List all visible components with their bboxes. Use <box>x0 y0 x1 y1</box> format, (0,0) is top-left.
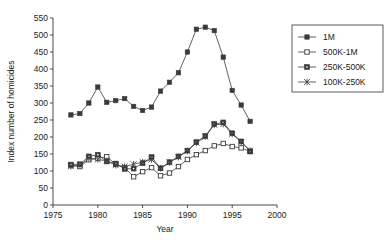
series-500k-1m-marker <box>185 157 189 161</box>
series-500k-1m-marker <box>230 144 234 148</box>
x-axis-tick-label: 1980 <box>88 210 107 220</box>
series-500k-1m-marker <box>176 164 180 168</box>
series-1m-marker <box>248 119 252 123</box>
y-axis-tick-label: 550 <box>34 13 48 23</box>
x-axis-tick-label: 1985 <box>133 210 152 220</box>
series-500k-1m-marker <box>158 174 162 178</box>
y-axis-tick-label: 500 <box>34 30 48 40</box>
y-axis-tick-label: 250 <box>34 115 48 125</box>
series-1m-marker <box>185 50 189 54</box>
series-1m-marker <box>114 98 118 102</box>
series-500k-1m-marker <box>194 152 198 156</box>
y-axis-tick-label: 450 <box>34 47 48 57</box>
legend-item-250k-500k-marker-dot <box>306 66 308 68</box>
y-axis-tick-label: 300 <box>34 98 48 108</box>
series-1m-marker <box>194 27 198 31</box>
legend-item-1m-marker <box>305 35 309 39</box>
series-1m-marker <box>96 85 100 89</box>
legend-item-1m-label: 1M <box>323 32 335 42</box>
series-500k-1m-marker <box>131 175 135 179</box>
legend-item-500k-1m-label: 500K-1M <box>323 47 358 57</box>
series-500k-1m-marker <box>239 146 243 150</box>
series-500k-1m-marker <box>167 171 171 175</box>
y-axis-tick-label: 50 <box>39 183 49 193</box>
y-axis-tick-label: 350 <box>34 81 48 91</box>
series-1m-marker <box>203 25 207 29</box>
series-1m-marker <box>149 105 153 109</box>
chart-figure: 0501001502002503003504004505005501975198… <box>0 0 392 247</box>
series-1m-marker <box>69 113 73 117</box>
series-1m-marker <box>78 111 82 115</box>
series-1m-marker <box>131 104 135 108</box>
y-axis-tick-label: 150 <box>34 149 48 159</box>
x-axis-tick-label: 1990 <box>178 210 197 220</box>
y-axis-tick-label: 0 <box>43 200 48 210</box>
x-axis-tick-label: 2000 <box>268 210 287 220</box>
y-axis-title: Index number of homicides <box>6 60 16 162</box>
y-axis-tick-label: 400 <box>34 64 48 74</box>
series-250k-500k-marker-dot <box>97 154 99 156</box>
legend-item-250k-500k-label: 250K-500K <box>323 62 366 72</box>
series-500k-1m-marker <box>140 169 144 173</box>
series-1m-marker <box>87 101 91 105</box>
legend-item-100k-250k-label: 100K-250K <box>323 77 366 87</box>
y-axis-tick-label: 200 <box>34 132 48 142</box>
series-1m-marker <box>176 71 180 75</box>
series-1m-marker <box>158 89 162 93</box>
y-axis-tick-label: 100 <box>34 166 48 176</box>
legend-item-500k-1m-marker <box>305 50 309 54</box>
series-line-1m <box>71 27 250 121</box>
series-500k-1m-marker <box>221 141 225 145</box>
series-500k-1m-marker <box>212 144 216 148</box>
series-1m-marker <box>239 103 243 107</box>
series-500k-1m-marker <box>203 148 207 152</box>
x-axis-tick-label: 1975 <box>44 210 63 220</box>
x-axis-title: Year <box>156 224 173 234</box>
series-250k-500k-marker-dot <box>133 168 135 170</box>
series-1m-marker <box>212 28 216 32</box>
series-1m-marker <box>105 100 109 104</box>
series-1m-marker <box>122 96 126 100</box>
homicide-index-line-chart: 0501001502002503003504004505005501975198… <box>0 0 392 247</box>
series-1m-marker <box>230 88 234 92</box>
x-axis-tick-label: 1995 <box>223 210 242 220</box>
series-1m-marker <box>221 55 225 59</box>
series-1m-marker <box>140 108 144 112</box>
series-500k-1m-marker <box>149 165 153 169</box>
series-1m-marker <box>167 80 171 84</box>
